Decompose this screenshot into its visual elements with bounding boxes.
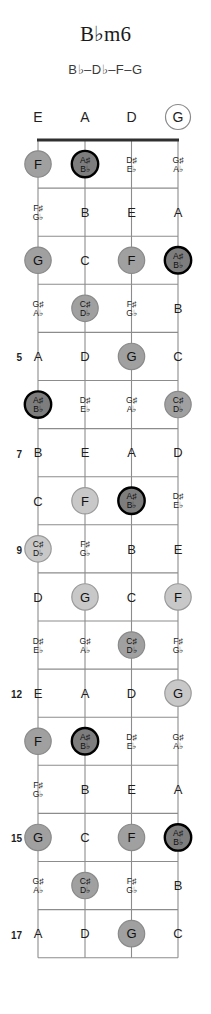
fret-number-5: 5 bbox=[16, 352, 22, 363]
note-label: C bbox=[33, 494, 42, 509]
note-label: G bbox=[33, 830, 43, 845]
note-label: G bbox=[126, 349, 136, 364]
note-label-flat: G♭ bbox=[33, 789, 44, 799]
note-label-flat: D♭ bbox=[173, 404, 183, 414]
note-label: D bbox=[80, 349, 89, 364]
note-label-flat: A♭ bbox=[127, 404, 137, 414]
note-label-flat: G♭ bbox=[173, 645, 184, 655]
note-label: E bbox=[174, 542, 183, 557]
note-label-flat: B♭ bbox=[33, 404, 43, 414]
note-label-flat: B♭ bbox=[80, 741, 90, 751]
note-label: C bbox=[127, 590, 136, 605]
note-label-flat: A♭ bbox=[173, 741, 183, 751]
note-label-flat: A♭ bbox=[80, 645, 90, 655]
fret-number-15: 15 bbox=[11, 833, 23, 844]
note-label: F bbox=[128, 253, 136, 268]
note-label: E bbox=[127, 782, 136, 797]
note-label: D bbox=[127, 686, 136, 701]
note-label: D bbox=[173, 445, 182, 460]
open-string-label-D: D bbox=[126, 109, 136, 125]
note-label-flat: E♭ bbox=[33, 645, 43, 655]
note-label-flat: B♭ bbox=[80, 164, 90, 174]
open-string-label-A: A bbox=[80, 109, 90, 125]
note-label: A bbox=[81, 686, 90, 701]
note-label: G bbox=[80, 590, 90, 605]
note-label: D bbox=[33, 590, 42, 605]
note-label: F bbox=[81, 494, 89, 509]
note-label-flat: G♭ bbox=[80, 548, 91, 558]
note-label-flat: E♭ bbox=[173, 500, 183, 510]
note-label-flat: B♭ bbox=[173, 837, 183, 847]
note-label: G bbox=[33, 253, 43, 268]
fret-number-17: 17 bbox=[11, 930, 23, 941]
note-label: F bbox=[174, 590, 182, 605]
note-label: B bbox=[81, 205, 90, 220]
fretboard-diagram: EADGFA♯B♭D♯E♭G♯A♭F♯G♭BEAGCFA♯B♭G♯A♭C♯D♭F… bbox=[0, 0, 211, 1014]
note-label: C bbox=[80, 253, 89, 268]
note-label: A bbox=[34, 926, 43, 941]
note-label: C bbox=[173, 349, 182, 364]
note-label: E bbox=[34, 686, 43, 701]
note-label-flat: A♭ bbox=[33, 308, 43, 318]
note-label: B bbox=[127, 542, 136, 557]
note-label-flat: G♭ bbox=[126, 885, 137, 895]
note-label-flat: E♭ bbox=[127, 164, 137, 174]
note-label: C bbox=[173, 926, 182, 941]
note-label: B bbox=[81, 782, 90, 797]
note-label-flat: D♭ bbox=[126, 645, 136, 655]
note-label: F bbox=[34, 734, 42, 749]
open-string-label-E: E bbox=[33, 109, 42, 125]
note-label-flat: E♭ bbox=[80, 404, 90, 414]
fret-number-7: 7 bbox=[16, 449, 22, 460]
note-label-flat: B♭ bbox=[127, 500, 137, 510]
note-label: A bbox=[127, 445, 136, 460]
fret-number-12: 12 bbox=[11, 689, 23, 700]
note-label-flat: A♭ bbox=[33, 885, 43, 895]
note-label: A bbox=[34, 349, 43, 364]
note-label: F bbox=[34, 157, 42, 172]
note-label: B bbox=[34, 445, 43, 460]
note-label: D bbox=[80, 926, 89, 941]
note-label-flat: A♭ bbox=[173, 164, 183, 174]
note-label-flat: E♭ bbox=[127, 741, 137, 751]
note-label: B bbox=[174, 878, 183, 893]
note-label-flat: D♭ bbox=[33, 548, 43, 558]
note-label: B bbox=[174, 301, 183, 316]
note-label: C bbox=[80, 830, 89, 845]
note-label: G bbox=[126, 926, 136, 941]
note-label-flat: D♭ bbox=[80, 308, 90, 318]
note-label: G bbox=[173, 686, 183, 701]
note-label: F bbox=[128, 830, 136, 845]
note-label: A bbox=[174, 205, 183, 220]
note-label: E bbox=[127, 205, 136, 220]
note-label: A bbox=[174, 782, 183, 797]
note-label-flat: B♭ bbox=[173, 260, 183, 270]
fret-number-9: 9 bbox=[16, 545, 22, 556]
open-string-label-G: G bbox=[173, 109, 184, 125]
note-label-flat: G♭ bbox=[33, 212, 44, 222]
note-label-flat: D♭ bbox=[80, 885, 90, 895]
note-label: E bbox=[81, 445, 90, 460]
note-label-flat: G♭ bbox=[126, 308, 137, 318]
